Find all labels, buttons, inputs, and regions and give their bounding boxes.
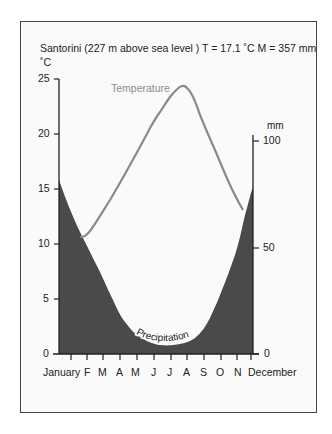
right-ticks	[253, 141, 259, 354]
month-label: J	[167, 366, 172, 378]
month-label: January	[43, 366, 80, 378]
month-ticks	[71, 354, 251, 360]
precipitation-area	[59, 180, 253, 354]
month-label: M	[98, 366, 107, 378]
month-label: O	[216, 366, 224, 378]
month-label: A	[116, 366, 123, 378]
month-label: M	[131, 366, 140, 378]
month-label: F	[84, 366, 90, 378]
month-label: J	[151, 366, 156, 378]
month-label: A	[183, 366, 190, 378]
month-label: December	[248, 366, 296, 378]
left-ticks	[54, 79, 59, 299]
temperature-line	[80, 86, 243, 237]
month-label: S	[200, 366, 207, 378]
month-label: N	[234, 366, 242, 378]
temperature-label: Temperature	[111, 82, 170, 94]
